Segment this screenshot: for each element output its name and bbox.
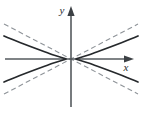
- x-axis-label: x: [123, 61, 129, 73]
- hyperbola-figure: x y: [0, 0, 143, 114]
- y-axis-arrowhead: [67, 6, 74, 16]
- y-axis-label: y: [59, 4, 65, 16]
- figure-canvas: x y: [0, 0, 143, 114]
